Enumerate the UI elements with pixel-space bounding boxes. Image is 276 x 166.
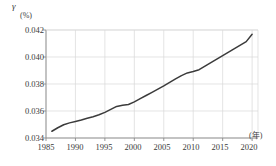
grid-lines [46, 30, 258, 138]
x-tick-label: 2000 [125, 143, 142, 152]
data-line [52, 34, 252, 131]
axis-tick-marks [43, 30, 252, 141]
x-axis-unit-label: (年) [249, 131, 262, 141]
data-series-layer [52, 34, 252, 131]
x-tick-label: 2005 [154, 143, 171, 152]
x-tick-label: 1990 [67, 143, 84, 152]
x-tick-label: 1985 [38, 143, 55, 152]
y-tick-label: 0.040 [0, 53, 44, 62]
x-tick-label: 2015 [212, 143, 229, 152]
x-tick-label: 2020 [241, 143, 258, 152]
y-tick-label: 0.038 [0, 80, 44, 89]
y-tick-label: 0.042 [0, 26, 44, 35]
x-tick-label: 2010 [183, 143, 200, 152]
x-tick-label: 1995 [96, 143, 113, 152]
y-tick-label: 0.036 [0, 107, 44, 116]
chart-container: γ (%) 0.042 0.040 0.038 0.036 0.034 1985… [0, 0, 276, 166]
